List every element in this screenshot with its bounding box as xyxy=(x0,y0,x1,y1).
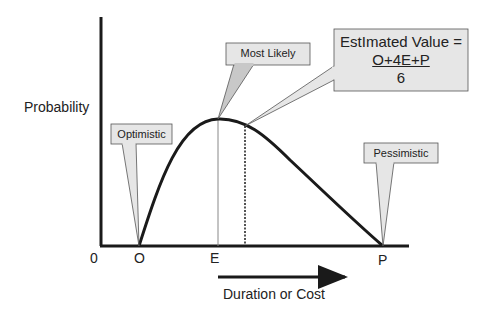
estimated-value-formula: EstImated Value = O+4E+P 6 xyxy=(334,33,468,87)
optimistic-callout xyxy=(111,124,172,246)
tick-label-most-likely: E xyxy=(210,250,219,266)
most-likely-callout-label: Most Likely xyxy=(226,47,310,59)
pessimistic-callout-label: Pessimistic xyxy=(364,147,438,159)
tick-label-optimistic: O xyxy=(134,250,145,266)
x-axis-label: Duration or Cost xyxy=(223,286,325,302)
distribution-curve xyxy=(139,119,383,246)
formula-denominator: 6 xyxy=(334,69,468,87)
formula-numerator: O+4E+P xyxy=(372,51,430,68)
tick-label-pessimistic: P xyxy=(378,252,387,268)
estimated-value-title: EstImated Value = xyxy=(334,33,468,51)
optimistic-callout-label: Optimistic xyxy=(111,128,172,140)
origin-label: 0 xyxy=(90,250,98,266)
y-axis-label: Probability xyxy=(24,99,89,115)
